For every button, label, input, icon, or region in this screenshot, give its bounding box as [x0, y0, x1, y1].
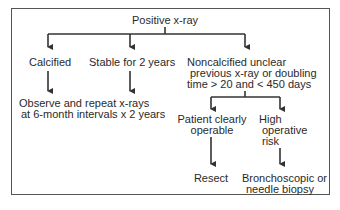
node-stable: Stable for 2 years — [89, 57, 175, 68]
node-observe-2: at 6-month intervals x 2 years — [21, 109, 165, 120]
node-highrisk-3: risk — [262, 136, 279, 147]
node-calcified: Calcified — [29, 57, 71, 68]
node-noncalcified-3: time > 20 and < 450 days — [187, 79, 311, 90]
node-operable-2: operable — [175, 125, 249, 136]
node-biopsy-2: needle biopsy — [246, 184, 314, 195]
node-resect: Resect — [185, 173, 237, 184]
root-node: Positive x-ray — [115, 15, 215, 26]
